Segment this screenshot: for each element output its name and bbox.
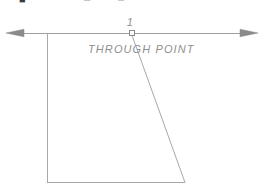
right-arrowhead-icon — [240, 29, 258, 37]
point-number-label: 1 — [127, 16, 134, 28]
left-arrowhead-icon — [6, 29, 24, 37]
through-point-marker[interactable] — [130, 31, 135, 36]
shape-slanted-edge[interactable] — [132, 34, 186, 183]
cad-drawing-canvas[interactable]: 1 THROUGH POINT — [0, 0, 264, 187]
through-point-label: THROUGH POINT — [88, 43, 195, 55]
drawing-screenshot: ■ – – 1 THROUGH POINT — [0, 0, 264, 187]
